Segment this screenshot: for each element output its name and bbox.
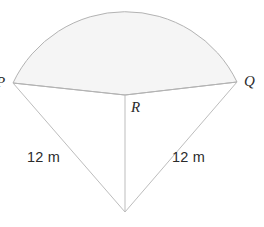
vertex-label-q: Q	[244, 74, 255, 89]
side-length-label-left: 12 m	[27, 150, 60, 165]
triangle-right-side	[125, 82, 237, 212]
vertex-label-r: R	[131, 100, 140, 115]
shaded-sector	[13, 12, 237, 95]
vertex-label-p: P	[0, 75, 5, 90]
triangle-left-side	[13, 83, 125, 212]
geometry-figure: P Q R 12 m 12 m	[0, 0, 264, 227]
side-length-label-right: 12 m	[172, 150, 205, 165]
